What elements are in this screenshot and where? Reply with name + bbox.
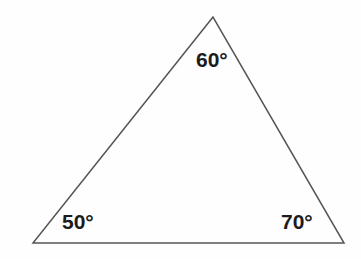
angle-label-bottom-right: 70°: [281, 211, 313, 232]
angle-label-apex: 60°: [196, 49, 228, 70]
angle-label-bottom-left: 50°: [62, 211, 94, 232]
triangle-figure: 60° 50° 70°: [0, 0, 361, 259]
